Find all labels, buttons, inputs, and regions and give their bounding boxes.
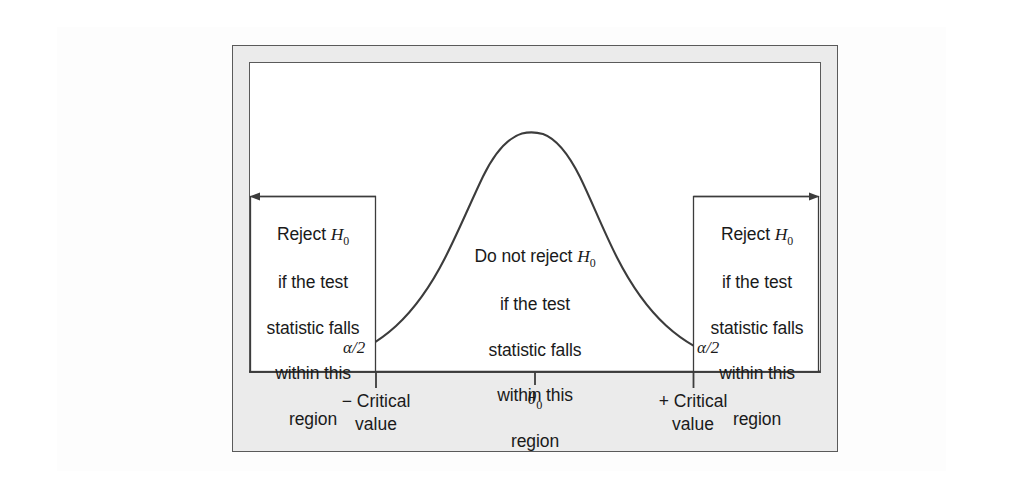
- negative-critical-value-label: − Critical value: [306, 390, 446, 436]
- right-reject-line-1: Reject H0: [721, 224, 793, 244]
- center-accept-line-2: if the test: [500, 294, 570, 314]
- right-reject-line-4: within this: [719, 363, 795, 383]
- center-accept-line-1: Do not reject H0: [474, 246, 595, 266]
- theta-null-label: θ0: [500, 388, 570, 413]
- right-alpha-over-two-label: α/2: [697, 338, 719, 358]
- left-reject-line-3: statistic falls: [267, 318, 360, 338]
- right-reject-line-2: if the test: [722, 272, 792, 292]
- right-reject-line-3: statistic falls: [711, 318, 804, 338]
- center-accept-line-3: statistic falls: [489, 340, 582, 360]
- left-alpha-over-two-label: α/2: [343, 338, 365, 358]
- center-accept-line-5: region: [511, 431, 559, 451]
- left-reject-line-1: Reject H0: [277, 224, 349, 244]
- figure-root: Reject H0 if the test statistic falls wi…: [0, 0, 1010, 489]
- left-reject-line-4: within this: [275, 363, 351, 383]
- positive-critical-value-label: + Critical value: [623, 390, 763, 436]
- left-reject-line-2: if the test: [278, 272, 348, 292]
